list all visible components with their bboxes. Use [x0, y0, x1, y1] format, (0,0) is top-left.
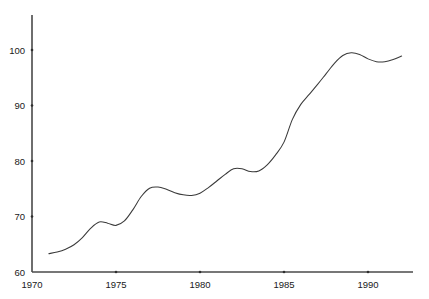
x-axis-tick-labels: 19701975198019851990	[21, 279, 378, 290]
x-tick-label: 1980	[189, 279, 210, 290]
y-tick-mark	[31, 104, 34, 107]
x-tick-mark	[283, 271, 286, 274]
data-series-line	[49, 53, 402, 254]
y-tick-label: 100	[9, 45, 25, 56]
x-tick-label: 1970	[21, 279, 42, 290]
x-tick-mark	[115, 271, 118, 274]
y-tick-label: 90	[14, 100, 25, 111]
y-axis-tick-labels: 60708090100	[9, 45, 25, 278]
x-tick-label: 1975	[105, 279, 126, 290]
y-tick-mark	[31, 49, 34, 52]
x-tick-label: 1985	[273, 279, 294, 290]
y-tick-mark	[31, 215, 34, 218]
y-tick-label: 70	[14, 211, 25, 222]
y-tick-label: 80	[14, 156, 25, 167]
chart-canvas: 60708090100 19701975198019851990	[0, 0, 429, 299]
x-tick-mark	[367, 271, 370, 274]
y-tick-mark	[31, 160, 34, 163]
x-tick-label: 1990	[357, 279, 378, 290]
line-chart: 60708090100 19701975198019851990	[0, 0, 429, 299]
x-tick-mark	[199, 271, 202, 274]
y-tick-label: 60	[14, 267, 25, 278]
